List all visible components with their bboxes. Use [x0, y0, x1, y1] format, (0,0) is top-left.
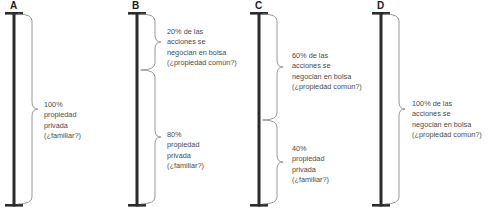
annotation-line: acciones se	[412, 109, 482, 119]
annotation-line: (¿propiedad común?)	[412, 130, 482, 140]
annotation-line: negocian en bolsa	[412, 120, 482, 130]
ownership-structure-figure: A100%propiedadprivada(¿familiar?)B20% de…	[0, 0, 492, 216]
annotation-line: 100% de las	[412, 99, 482, 109]
bracket-public-100	[385, 14, 405, 204]
bar-stem	[380, 12, 383, 207]
annotation-public-100: 100% de lasacciones senegocian en bolsa(…	[412, 99, 482, 141]
